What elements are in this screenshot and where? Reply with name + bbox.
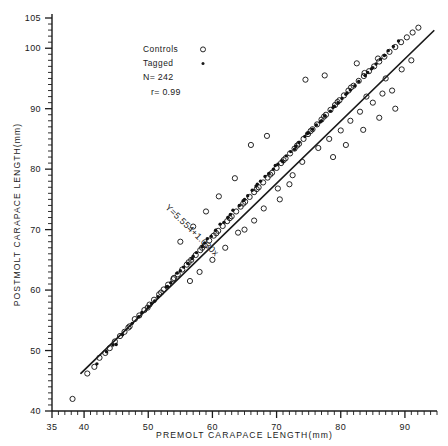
data-point [320, 119, 323, 122]
x-axis-title: PREMOLT CARAPACE LENGTH(mm) [156, 430, 333, 440]
data-point [222, 221, 225, 224]
legend-label-controls: Controls [143, 44, 178, 54]
data-point [153, 299, 156, 302]
data-point [272, 167, 275, 170]
y-tick-label-60: 60 [30, 285, 41, 295]
data-point [307, 131, 310, 134]
data-point [387, 49, 390, 52]
data-point [277, 197, 282, 202]
data-point [111, 343, 114, 346]
data-point [178, 239, 183, 244]
data-point [377, 115, 382, 120]
data-point [187, 278, 192, 283]
data-point [410, 30, 415, 35]
data-point [363, 74, 366, 77]
y-tick-label-90: 90 [30, 104, 41, 114]
data-point [197, 269, 202, 274]
data-point [340, 97, 343, 100]
data-point [281, 160, 284, 163]
data-point [399, 67, 404, 72]
data-point [218, 222, 221, 225]
data-point [345, 91, 348, 94]
data-point [131, 322, 134, 325]
data-point [316, 145, 321, 150]
data-point [389, 88, 394, 93]
data-point [248, 142, 253, 147]
data-point [214, 229, 217, 232]
data-point [366, 71, 369, 74]
data-point [330, 154, 335, 159]
data-point [186, 262, 189, 265]
data-point [203, 209, 208, 214]
data-point [252, 218, 257, 223]
data-point [276, 163, 279, 166]
data-point [242, 227, 247, 232]
data-point [303, 135, 306, 138]
y-tick-label-100: 100 [25, 43, 41, 53]
data-point [166, 285, 169, 288]
data-point [182, 265, 185, 268]
data-point [311, 128, 314, 131]
data-point [140, 311, 143, 314]
data-point [235, 230, 240, 235]
data-point [374, 62, 377, 65]
data-point [357, 80, 360, 83]
data-point [315, 123, 318, 126]
data-point [289, 150, 292, 153]
data-point [300, 159, 305, 164]
data-point [251, 189, 254, 192]
data-point [267, 172, 270, 175]
legend-label-tagged: Tagged [143, 58, 173, 68]
data-point [383, 54, 386, 57]
data-point [156, 295, 159, 298]
data-point [259, 180, 262, 183]
data-point [393, 106, 398, 111]
legend-sample-size: N= 242 [143, 72, 173, 82]
data-point [105, 350, 108, 353]
data-point [327, 136, 332, 141]
data-point [397, 39, 400, 42]
legend-marker-open-circle [201, 47, 206, 52]
data-point [137, 315, 140, 318]
x-tick-label-90: 90 [400, 422, 411, 432]
y-tick-label-105: 105 [25, 13, 41, 23]
data-point [371, 66, 374, 69]
data-point [353, 84, 356, 87]
y-tick-label-80: 80 [30, 164, 41, 174]
legend-marker-filled-dot [202, 62, 205, 65]
data-point [209, 235, 212, 238]
data-point [354, 61, 359, 66]
data-point [191, 255, 194, 258]
data-point [338, 128, 343, 133]
scatter-plot-figure: 40506070809010010535405060708090PREMOLT … [0, 0, 448, 446]
data-point [293, 148, 296, 151]
data-point [329, 109, 332, 112]
data-point [336, 101, 339, 104]
data-point [195, 251, 198, 254]
data-point [404, 35, 409, 40]
data-point [380, 91, 385, 96]
data-point [392, 45, 395, 48]
data-point [343, 142, 348, 147]
data-point [210, 257, 215, 262]
data-point [95, 362, 98, 365]
data-point [114, 343, 117, 346]
data-point [229, 213, 232, 216]
y-tick-label-70: 70 [30, 225, 41, 235]
data-point [285, 154, 288, 157]
data-point [200, 245, 203, 248]
data-point [147, 305, 150, 308]
data-point [348, 118, 353, 123]
data-point [85, 371, 90, 376]
data-point [333, 105, 336, 108]
data-point [290, 173, 295, 178]
data-point [322, 73, 327, 78]
data-point [357, 109, 362, 114]
data-point [261, 206, 266, 211]
data-point [303, 77, 308, 82]
x-tick-label-50: 50 [143, 422, 154, 432]
y-axis-title: POSTMOLT CARAPACE LENGTH(mm) [12, 123, 22, 307]
data-point [416, 25, 421, 30]
data-point [179, 269, 182, 272]
data-point [361, 127, 366, 132]
